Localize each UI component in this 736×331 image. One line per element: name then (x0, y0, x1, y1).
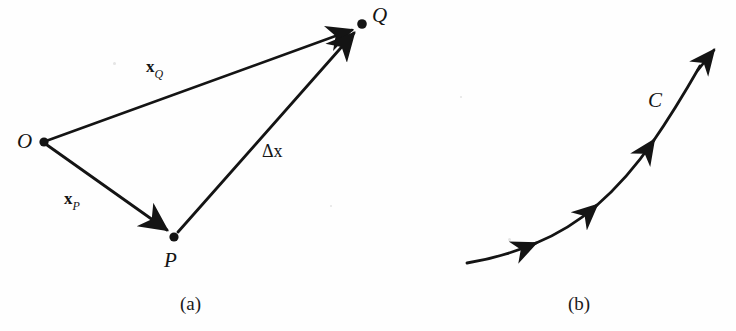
curve-segment-2 (534, 205, 597, 244)
figure-container: O P Q xQ xP Δx C (a) (b) (0, 0, 736, 331)
vector-delta-x-line (178, 33, 354, 232)
vector-label-x-q: xQ (146, 58, 163, 78)
curve-segment-1 (467, 243, 536, 263)
vector-subscript-x-q: Q (155, 67, 164, 81)
scan-speckle (113, 62, 116, 65)
curve-segment-3 (595, 140, 654, 207)
vector-subscript-x-p: P (73, 199, 80, 213)
caption-a: (a) (180, 294, 201, 313)
point-label-q: Q (372, 5, 388, 26)
curve-label-c: C (648, 90, 663, 111)
vector-symbol-x-p: x (64, 189, 73, 208)
vector-x-p-line (47, 145, 167, 230)
point-label-p: P (164, 250, 177, 271)
scan-speckle (508, 238, 511, 241)
caption-b: (b) (568, 294, 590, 313)
scan-speckle (330, 205, 332, 207)
point-label-origin: O (17, 131, 33, 152)
vector-symbol-x-q: x (146, 57, 155, 76)
vector-label-delta-x: Δx (262, 142, 283, 160)
vector-label-x-p: xP (64, 190, 80, 210)
scan-speckle (460, 96, 462, 98)
point-p-dot (169, 232, 178, 241)
figure-canvas (0, 0, 736, 331)
panel-a-group (39, 19, 366, 241)
panel-b-group (467, 50, 714, 263)
point-origin-dot (39, 137, 48, 146)
vector-symbol-delta-x: Δx (262, 141, 283, 161)
curve-segment-5-tip (698, 50, 714, 70)
point-q-dot (357, 19, 367, 29)
